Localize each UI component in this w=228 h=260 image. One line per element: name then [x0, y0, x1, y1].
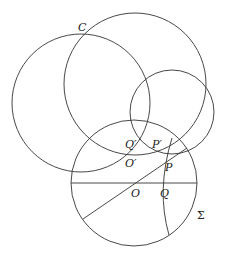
label-o: O: [131, 187, 140, 200]
label-o-prime: O′: [125, 157, 137, 170]
label-c: C: [78, 21, 87, 34]
circle-small: [130, 70, 214, 154]
circle-c: [12, 34, 150, 172]
label-q-prime: Q′: [125, 138, 137, 151]
label-p: P: [164, 161, 173, 174]
label-q: Q: [160, 187, 169, 200]
inversion-diagram: C Q′ P′ O′ P O Q Σ: [0, 0, 228, 260]
label-p-prime: P′: [151, 138, 162, 151]
label-sigma: Σ: [197, 209, 205, 222]
